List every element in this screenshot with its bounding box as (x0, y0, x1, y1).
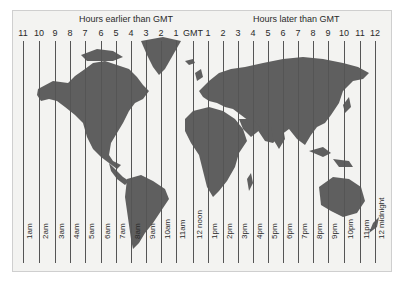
time-label: 7pm (300, 223, 309, 239)
offset-label-gmt: GMT (183, 28, 203, 38)
time-zone-line (70, 41, 71, 263)
time-zone-line (101, 41, 102, 263)
time-label: 6am (103, 223, 112, 239)
offset-label: 2 (220, 28, 225, 38)
time-zone-line (55, 41, 56, 263)
time-zone-line (375, 41, 376, 263)
offset-label: 4 (250, 28, 255, 38)
offset-label: 8 (310, 28, 315, 38)
time-zone-line (223, 41, 224, 263)
time-label: 10am (163, 219, 172, 239)
time-label: 4am (72, 223, 81, 239)
earlier-than-gmt-heading: Hours earlier than GMT (79, 14, 173, 24)
offset-label: 1 (173, 28, 178, 38)
gmt-meridian-line (193, 41, 194, 263)
offset-label: 11 (18, 28, 27, 38)
offset-label: 6 (280, 28, 285, 38)
offset-label: 9 (52, 28, 57, 38)
time-label: 7am (118, 223, 127, 239)
time-zone-line (283, 41, 284, 263)
time-zone-line (298, 41, 299, 263)
time-label-midnight: 12 midnight (377, 198, 386, 239)
time-label: 1pm (210, 223, 219, 239)
offset-label: 8 (67, 28, 72, 38)
offset-label: 5 (265, 28, 270, 38)
time-label: 5pm (270, 223, 279, 239)
time-label: 2am (41, 223, 50, 239)
time-label: 9pm (330, 223, 339, 239)
time-label: 3pm (240, 223, 249, 239)
time-label: 6pm (285, 223, 294, 239)
time-label: 1am (25, 223, 34, 239)
offset-label: 1 (205, 28, 210, 38)
time-label: 11pm (362, 220, 371, 239)
time-zone-line (328, 41, 329, 263)
offset-label: 12 (370, 28, 380, 38)
time-zone-line (146, 41, 147, 263)
time-zone-line (176, 41, 177, 263)
time-label: 2pm (225, 223, 234, 239)
time-zone-line (268, 41, 269, 263)
offset-label: 9 (325, 28, 330, 38)
time-label: 3am (57, 223, 66, 239)
time-zone-line (116, 41, 117, 263)
time-label: 8pm (315, 223, 324, 239)
offset-label: 11 (355, 28, 364, 38)
time-zone-line (344, 41, 345, 263)
offset-label: 7 (82, 28, 87, 38)
time-zone-line (238, 41, 239, 263)
offset-label: 2 (158, 28, 163, 38)
offset-label: 3 (143, 28, 148, 38)
offset-label: 5 (113, 28, 118, 38)
time-zone-line (39, 41, 40, 263)
time-zone-line (208, 41, 209, 263)
north-america (37, 61, 149, 169)
time-label: 9am (148, 223, 157, 239)
time-label: 4pm (255, 223, 264, 239)
time-zone-line (161, 41, 162, 263)
later-than-gmt-heading: Hours later than GMT (253, 14, 340, 24)
time-zone-line (131, 41, 132, 263)
offset-label: 3 (235, 28, 240, 38)
offset-label: 10 (34, 28, 44, 38)
time-label: 10pm (346, 219, 355, 239)
time-zone-line (313, 41, 314, 263)
time-label-noon: 12 noon (195, 210, 204, 239)
time-label: 8am (133, 223, 142, 239)
time-zone-line (253, 41, 254, 263)
offset-label: 10 (339, 28, 349, 38)
offset-label: 7 (295, 28, 300, 38)
offset-label: 4 (128, 28, 133, 38)
australia (319, 177, 365, 217)
time-zone-line (85, 41, 86, 263)
time-label: 5am (87, 223, 96, 239)
time-zone-map: Hours earlier than GMT Hours later than … (12, 10, 392, 272)
offset-label: 6 (98, 28, 103, 38)
time-zone-line (23, 41, 24, 263)
time-zone-line (360, 41, 361, 263)
time-label: 11am (178, 220, 187, 239)
